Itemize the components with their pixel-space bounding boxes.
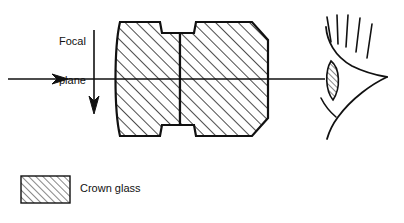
eyelash-icon: [356, 18, 360, 52]
focal-plane-label: Focal plane: [59, 9, 86, 113]
focal-plane-label-line1: Focal: [59, 35, 86, 48]
eyelash-icon: [337, 15, 338, 44]
eyelash-icon: [346, 15, 348, 47]
optical-diagram-figure: Focal plane Crown glass: [0, 0, 404, 223]
eyelash-icon: [367, 24, 372, 58]
focal-plane-arrow: [89, 30, 99, 114]
legend-item-label: Crown glass: [80, 182, 141, 195]
legend-swatch: [21, 176, 70, 203]
eye-cornea: [327, 61, 339, 100]
eye-profile: [321, 15, 387, 139]
eye-cheek-contour: [321, 98, 336, 117]
legend-swatch-crown-glass: [21, 176, 70, 203]
focal-plane-label-line2: plane: [59, 74, 86, 87]
